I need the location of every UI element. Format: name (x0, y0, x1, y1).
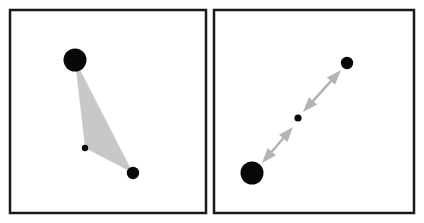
figure-canvas (0, 0, 424, 223)
right-panel (214, 10, 414, 213)
right-panel-small-point (294, 114, 301, 121)
figure-root (0, 0, 424, 223)
left-panel (10, 10, 206, 213)
right-panel-large-point (241, 162, 264, 185)
right-panel-frame (214, 10, 414, 213)
left-panel-frame (10, 10, 206, 213)
left-panel-medium-point (127, 167, 139, 179)
left-panel-large-point (64, 49, 87, 72)
right-panel-medium-point (341, 57, 353, 69)
left-panel-small-point (82, 145, 88, 151)
